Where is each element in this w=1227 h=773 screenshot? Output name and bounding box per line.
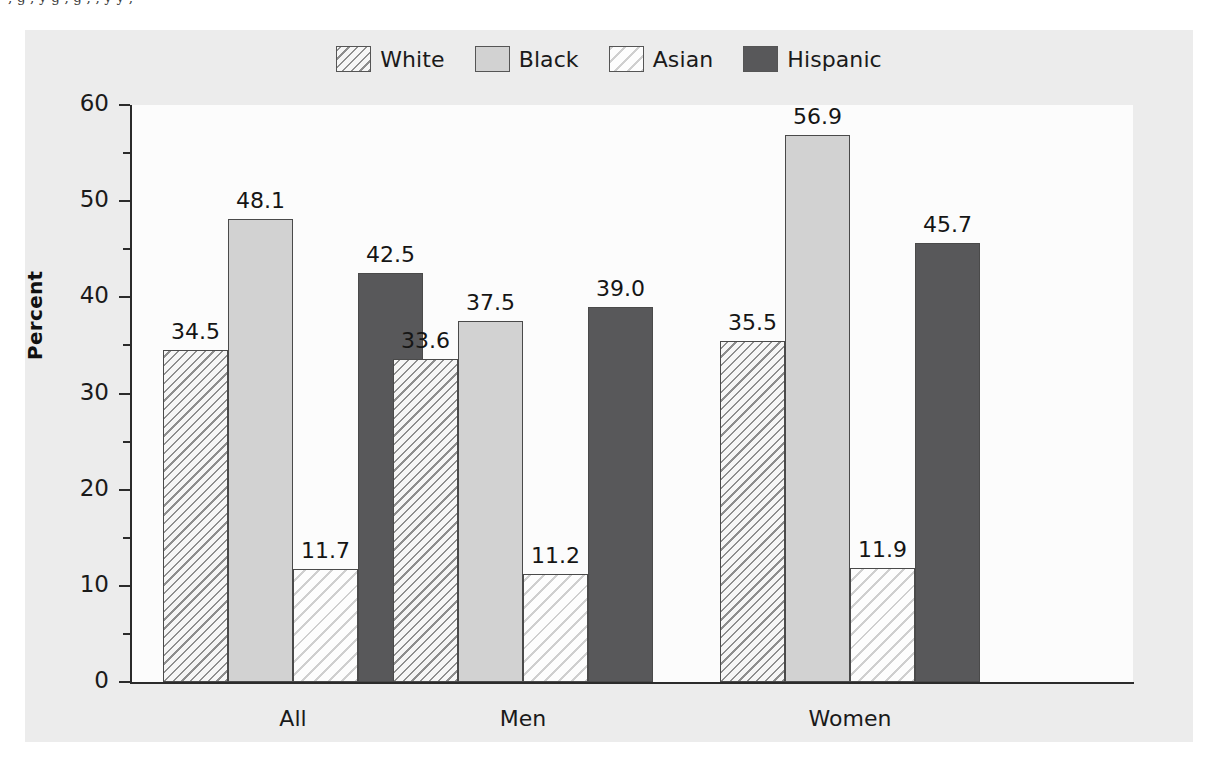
legend-label: Black bbox=[519, 47, 579, 72]
bar-women-black bbox=[785, 135, 850, 682]
y-tick-major bbox=[119, 681, 130, 683]
y-tick-label: 50 bbox=[49, 186, 109, 212]
legend-label: White bbox=[380, 47, 444, 72]
cut-off-text-above-figure: , g , y g , g , , y y , bbox=[0, 0, 1227, 16]
bar-women-hispanic bbox=[915, 243, 980, 682]
y-tick-label: 30 bbox=[49, 379, 109, 405]
bar-value-label: 37.5 bbox=[446, 290, 535, 315]
y-tick-major bbox=[119, 585, 130, 587]
bar-value-label: 39.0 bbox=[576, 276, 665, 301]
y-tick-label: 10 bbox=[49, 571, 109, 597]
bar-women-white bbox=[720, 341, 785, 682]
y-tick-label: 20 bbox=[49, 475, 109, 501]
y-tick-minor bbox=[123, 248, 130, 250]
bar-value-label: 42.5 bbox=[346, 242, 435, 267]
bar-value-label: 45.7 bbox=[903, 212, 992, 237]
x-category-label-men: Men bbox=[433, 706, 613, 731]
legend-label: Hispanic bbox=[787, 47, 882, 72]
y-tick-minor bbox=[123, 152, 130, 154]
x-axis-line bbox=[130, 682, 1134, 684]
y-tick-major bbox=[119, 393, 130, 395]
x-category-label-all: All bbox=[203, 706, 383, 731]
legend-item-asian: Asian bbox=[609, 46, 714, 72]
bar-value-label: 11.7 bbox=[281, 538, 370, 563]
bar-all-white bbox=[163, 350, 228, 682]
bar-value-label: 11.9 bbox=[838, 537, 927, 562]
y-axis-line bbox=[130, 105, 132, 684]
legend-item-hispanic: Hispanic bbox=[743, 46, 882, 72]
y-axis-label: Percent bbox=[23, 271, 47, 360]
y-tick-major bbox=[119, 104, 130, 106]
bar-value-label: 34.5 bbox=[151, 319, 240, 344]
y-tick-minor bbox=[123, 441, 130, 443]
legend-item-white: White bbox=[336, 46, 444, 72]
x-category-label-women: Women bbox=[760, 706, 940, 731]
bar-value-label: 35.5 bbox=[708, 310, 797, 335]
legend-swatch-white bbox=[336, 46, 371, 72]
legend-swatch-asian bbox=[609, 46, 644, 72]
legend-swatch-hispanic bbox=[743, 46, 778, 72]
bar-men-hispanic bbox=[588, 307, 653, 682]
bar-men-asian bbox=[523, 574, 588, 682]
bar-value-label: 33.6 bbox=[381, 328, 470, 353]
bar-women-asian bbox=[850, 568, 915, 682]
bar-value-label: 56.9 bbox=[773, 104, 862, 129]
y-tick-label: 60 bbox=[49, 90, 109, 116]
bar-all-asian bbox=[293, 569, 358, 682]
legend-label: Asian bbox=[653, 47, 714, 72]
y-tick-minor bbox=[123, 537, 130, 539]
y-tick-label: 0 bbox=[49, 667, 109, 693]
y-tick-label: 40 bbox=[49, 282, 109, 308]
chart-legend: WhiteBlackAsianHispanic bbox=[25, 46, 1193, 72]
y-tick-minor bbox=[123, 633, 130, 635]
y-tick-major bbox=[119, 489, 130, 491]
y-tick-major bbox=[119, 200, 130, 202]
bar-men-white bbox=[393, 359, 458, 682]
bar-value-label: 48.1 bbox=[216, 188, 305, 213]
legend-swatch-black bbox=[475, 46, 510, 72]
bar-all-black bbox=[228, 219, 293, 682]
bar-men-black bbox=[458, 321, 523, 682]
y-tick-minor bbox=[123, 344, 130, 346]
legend-item-black: Black bbox=[475, 46, 579, 72]
bar-value-label: 11.2 bbox=[511, 543, 600, 568]
figure-panel: WhiteBlackAsianHispanic Percent 01020304… bbox=[25, 30, 1193, 742]
y-tick-major bbox=[119, 296, 130, 298]
